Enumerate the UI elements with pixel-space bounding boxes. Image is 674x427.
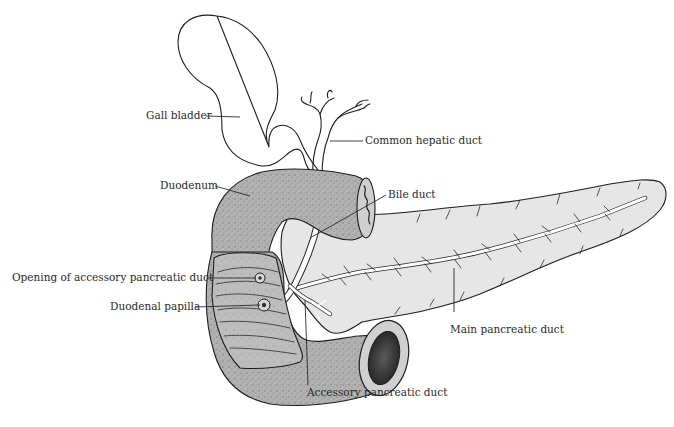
label-duodenum: Duodenum: [160, 179, 218, 191]
label-common-hepatic-duct: Common hepatic duct: [365, 134, 483, 146]
hepatic-duct-tree: [301, 90, 370, 176]
label-bile-duct: Bile duct: [388, 188, 436, 200]
gall-bladder: [178, 15, 318, 176]
label-main-pancreatic-duct: Main pancreatic duct: [450, 323, 565, 335]
pancreas-anatomy-diagram: Gall bladder Common hepatic duct Duodenu…: [0, 0, 674, 427]
label-gall-bladder: Gall bladder: [146, 109, 213, 121]
label-opening-accessory-duct: Opening of accessory pancreatic duct: [12, 271, 214, 283]
duodenum-upper-opening: [357, 178, 375, 238]
gall-bladder-outline: [178, 15, 318, 176]
hepatic-duct-branches: [301, 90, 370, 118]
label-accessory-pancreatic-duct: Accessory pancreatic duct: [306, 386, 448, 398]
label-duodenal-papilla: Duodenal papilla: [110, 300, 200, 312]
